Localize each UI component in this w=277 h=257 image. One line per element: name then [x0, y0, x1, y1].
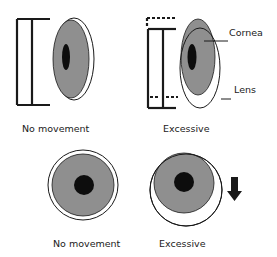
caption-side-no-movement: No movement [22, 123, 90, 134]
pupil [74, 175, 94, 195]
caption-side-excessive: Excessive [163, 123, 210, 134]
lens-movement-diagram: No movement Cornea Lens Excessive No mov… [0, 0, 277, 257]
caption-front-no-movement: No movement [53, 238, 121, 249]
panel-side-excessive: Cornea Lens Excessive [147, 18, 263, 134]
cornea [181, 19, 215, 95]
cornea [53, 20, 89, 98]
panel-front-excessive: Excessive [150, 153, 242, 249]
panel-side-no-movement: No movement [17, 18, 94, 134]
caption-front-excessive: Excessive [159, 238, 206, 249]
callout-cornea-label: Cornea [229, 27, 263, 38]
panel-front-no-movement: No movement [48, 150, 121, 249]
pupil [174, 172, 194, 192]
callout-lens-label: Lens [234, 84, 256, 95]
eyelid-bracket [17, 19, 50, 105]
down-arrow-icon [227, 177, 242, 201]
pupil [188, 44, 197, 70]
pupil [62, 44, 70, 70]
